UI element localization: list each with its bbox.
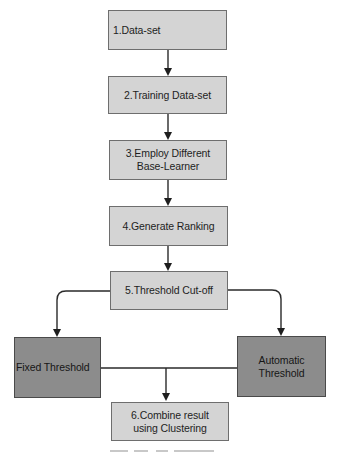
- node-employ-base-learner: 3.Employ Different Base-Learner: [109, 140, 227, 180]
- arrowhead-icon: [164, 68, 172, 76]
- node-label: 5.Threshold Cut-off: [125, 284, 213, 297]
- node-label-line2: Base-Learner: [137, 160, 199, 173]
- edge-n2-n3: [164, 114, 172, 140]
- node-label: 4.Generate Ranking: [122, 220, 214, 233]
- arrowhead-icon: [277, 328, 285, 336]
- node-fixed-threshold: Fixed Threshold: [14, 337, 101, 398]
- arrowhead-icon: [53, 329, 61, 337]
- arrowhead-icon: [162, 393, 170, 401]
- edge-n1-n2: [164, 50, 172, 76]
- node-generate-ranking: 4.Generate Ranking: [109, 206, 228, 246]
- arrowhead-icon: [164, 198, 172, 206]
- flowchart-canvas: 1.Data-set 2.Training Data-set 3.Employ …: [0, 0, 337, 454]
- node-training-data-set: 2.Training Data-set: [108, 76, 227, 114]
- node-label: Fixed Threshold: [16, 361, 90, 374]
- node-label: 1.Data-set: [113, 24, 160, 37]
- edge-n4-n5: [164, 246, 172, 271]
- edge-n5-auto: [228, 290, 285, 336]
- node-label-line2: using Clustering: [133, 422, 207, 435]
- figure-caption-clipped: [110, 450, 230, 454]
- edge-n5-fixed: [53, 291, 110, 337]
- node-label-line1: 3.Employ Different: [126, 147, 210, 160]
- node-combine-clustering: 6.Combine result using Clustering: [111, 402, 229, 441]
- node-threshold-cutoff: 5.Threshold Cut-off: [110, 271, 228, 310]
- node-label-line2: Threshold: [259, 367, 305, 380]
- node-label-line1: Automatic: [259, 354, 305, 367]
- node-data-set: 1.Data-set: [108, 10, 227, 50]
- arrowhead-icon: [164, 132, 172, 140]
- edge-thresholds-n6: [101, 368, 237, 401]
- edge-n3-n4: [164, 180, 172, 206]
- node-label: 2.Training Data-set: [124, 89, 211, 102]
- node-label-line1: 6.Combine result: [131, 409, 209, 422]
- node-automatic-threshold: Automatic Threshold: [237, 336, 326, 397]
- arrowhead-icon: [164, 263, 172, 271]
